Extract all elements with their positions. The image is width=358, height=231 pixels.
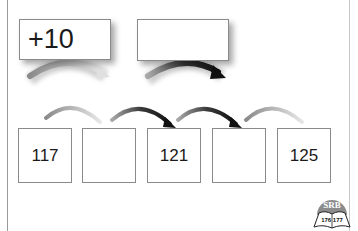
number-box-2-blank[interactable] [82,128,136,183]
small-arrow-1-icon [46,108,100,122]
number-box-1: 117 [18,128,72,183]
dark-curved-arrow-icon [148,63,226,80]
small-arrow-2-icon [112,109,176,128]
light-curved-arrow-icon [30,63,110,80]
number-box-3: 121 [147,128,201,183]
number-value: 121 [160,146,188,166]
srb-book-logo-icon: SRB 176 177 [311,193,353,231]
operation-box-empty[interactable] [137,19,229,61]
operation-box-plus-ten: +10 [19,19,111,60]
number-value: 117 [31,146,58,166]
small-arrow-4-icon [246,108,302,122]
small-arrow-3-icon [178,109,242,128]
number-value: 125 [290,146,318,166]
logo-brand: SRB [323,200,341,210]
logo-pages: 176 177 [321,217,343,223]
operation-label: +10 [28,24,74,55]
number-box-5: 125 [277,128,331,183]
number-box-4-blank[interactable] [212,128,266,183]
